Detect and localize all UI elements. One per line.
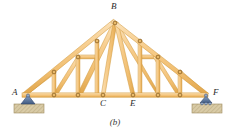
joint-pin-BL2 [76,93,80,97]
web-vertical-right-inner [156,56,160,96]
truss-diagram [0,0,230,135]
truss-figure: A B C E F (b) [0,0,230,135]
joint-pin-C [101,93,105,97]
web-vertical-left-inner [76,56,80,96]
joint-pin-B [113,21,117,25]
joint-pin-BR1 [178,93,182,97]
web-vertical-left-outer [52,71,56,96]
joint-pin-R2 [156,55,160,59]
node-label-C: C [100,99,106,108]
node-label-A: A [12,88,18,97]
joint-pin-L1 [52,70,56,74]
joint-pin-E [131,93,135,97]
figure-caption: (b) [0,118,230,127]
joint-pin-L2 [76,55,80,59]
joint-pin-R3 [138,39,142,43]
node-label-B: B [111,2,117,11]
joint-pin-L3 [95,39,99,43]
node-label-F: F [213,88,219,97]
joint-pin-R1 [178,70,182,74]
joint-pin-BR2 [156,93,160,97]
top-chord-left [23,20,117,97]
web-members [24,22,207,97]
web-vertical-center-left [95,40,99,96]
node-label-E: E [130,99,136,108]
joint-pin-BL1 [52,93,56,97]
web-vertical-center-right [138,40,142,96]
